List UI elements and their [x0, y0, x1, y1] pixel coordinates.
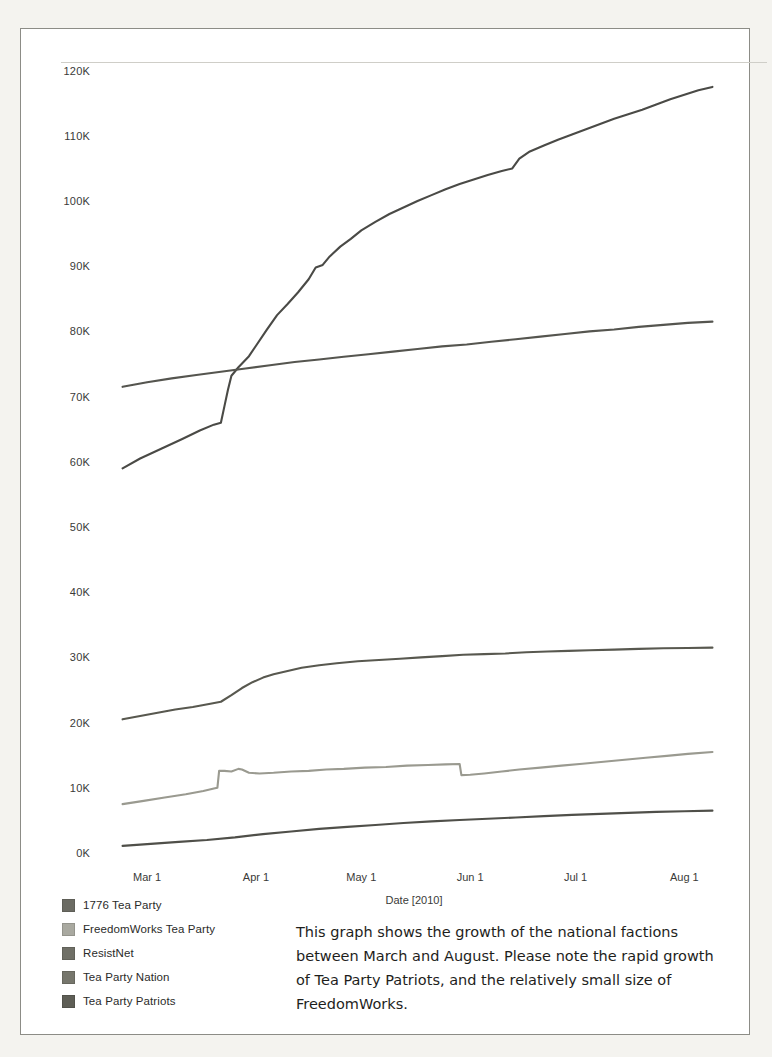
- legend-item[interactable]: ResistNet: [62, 941, 292, 965]
- series-line: [123, 87, 713, 468]
- x-axis: Mar 1Apr 1May 1Jun 1Jul 1Aug 1: [98, 871, 730, 893]
- legend-color-swatch: [62, 947, 75, 960]
- x-axis-tick-label: Mar 1: [133, 871, 161, 883]
- legend-color-swatch: [62, 899, 75, 912]
- scanned-page: 0K10K20K30K40K50K60K70K80K90K100K110K120…: [0, 0, 772, 1057]
- legend-color-swatch: [62, 995, 75, 1008]
- legend-item-label: 1776 Tea Party: [83, 899, 162, 911]
- legend-item-label: Tea Party Nation: [83, 971, 170, 983]
- series-line: [123, 648, 713, 720]
- series-line: [123, 322, 713, 387]
- y-axis: 0K10K20K30K40K50K60K70K80K90K100K110K120…: [38, 38, 94, 853]
- legend-item[interactable]: FreedomWorks Tea Party: [62, 917, 292, 941]
- legend-item-label: Tea Party Patriots: [83, 995, 176, 1007]
- legend-item[interactable]: Tea Party Patriots: [62, 989, 292, 1013]
- legend-item[interactable]: 1776 Tea Party: [62, 893, 292, 917]
- chart-legend: 1776 Tea PartyFreedomWorks Tea PartyResi…: [62, 893, 292, 1013]
- series-line: [123, 811, 713, 846]
- y-axis-tick-label: 30K: [36, 651, 90, 663]
- figure-caption: This graph shows the growth of the natio…: [296, 920, 714, 1016]
- line-chart: 0K10K20K30K40K50K60K70K80K90K100K110K120…: [20, 28, 750, 858]
- y-axis-tick-label: 100K: [36, 195, 90, 207]
- y-axis-tick-label: 10K: [36, 782, 90, 794]
- y-axis-tick-label: 40K: [36, 586, 90, 598]
- y-axis-tick-label: 60K: [36, 456, 90, 468]
- x-axis-tick-label: Apr 1: [243, 871, 269, 883]
- legend-item-label: FreedomWorks Tea Party: [83, 923, 215, 935]
- legend-item[interactable]: Tea Party Nation: [62, 965, 292, 989]
- x-axis-tick-label: May 1: [346, 871, 376, 883]
- legend-color-swatch: [62, 971, 75, 984]
- y-axis-tick-label: 50K: [36, 521, 90, 533]
- y-axis-tick-label: 20K: [36, 717, 90, 729]
- series-line: [123, 752, 713, 804]
- plot-area: [98, 38, 730, 853]
- legend-item-label: ResistNet: [83, 947, 134, 959]
- y-axis-tick-label: 0K: [36, 847, 90, 859]
- y-axis-tick-label: 110K: [36, 130, 90, 142]
- y-axis-tick-label: 90K: [36, 260, 90, 272]
- y-axis-tick-label: 80K: [36, 325, 90, 337]
- x-axis-tick-label: Jul 1: [564, 871, 587, 883]
- legend-color-swatch: [62, 923, 75, 936]
- y-axis-tick-label: 120K: [36, 65, 90, 77]
- y-axis-tick-label: 70K: [36, 391, 90, 403]
- x-axis-tick-label: Aug 1: [670, 871, 699, 883]
- x-axis-tick-label: Jun 1: [457, 871, 484, 883]
- chart-series-layer: [98, 38, 730, 853]
